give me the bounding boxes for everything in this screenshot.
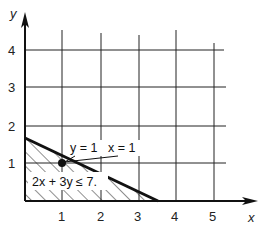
y-tick-4: 4 — [8, 43, 15, 58]
inequality-label: 2x + 3y ≤ 7. — [32, 175, 97, 189]
x-tick-2: 2 — [97, 209, 104, 224]
y-tick-3: 3 — [8, 80, 15, 95]
point-label-y: y = 1 — [70, 141, 97, 155]
point-1-1 — [58, 159, 66, 167]
y-tick-1: 1 — [8, 156, 15, 171]
x-tick-3: 3 — [134, 209, 141, 224]
x-tick-5: 5 — [209, 209, 216, 224]
feasible-region-diagram: 2x + 3y ≤ 7. y = 1 x = 1 1 2 3 4 5 x 1 2… — [0, 0, 266, 235]
x-tick-1: 1 — [58, 209, 65, 224]
point-label-x: x = 1 — [108, 141, 135, 155]
x-tick-4: 4 — [171, 209, 178, 224]
y-tick-2: 2 — [8, 119, 15, 134]
y-axis-label: y — [9, 6, 18, 21]
x-axis-label: x — [247, 210, 255, 225]
